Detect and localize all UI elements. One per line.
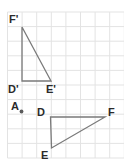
- vertex-label-e-prime: E': [46, 83, 56, 95]
- shapes-layer: [22, 27, 105, 148]
- geometry-figure: A F'E'D'DFE: [0, 0, 124, 168]
- center-of-dilation-point: A: [11, 100, 23, 113]
- vertex-label-f: F: [108, 106, 115, 118]
- figure-canvas: A F'E'D'DFE: [0, 0, 124, 168]
- vertex-label-e: E: [41, 149, 48, 161]
- point-label-a: A: [11, 100, 19, 112]
- vertex-label-d-prime: D': [8, 83, 19, 95]
- vertex-label-d: D: [37, 106, 45, 118]
- point-a-dot: [20, 110, 24, 114]
- vertex-labels-layer: F'E'D'DFE: [8, 13, 115, 161]
- vertex-label-f-prime: F': [9, 13, 19, 25]
